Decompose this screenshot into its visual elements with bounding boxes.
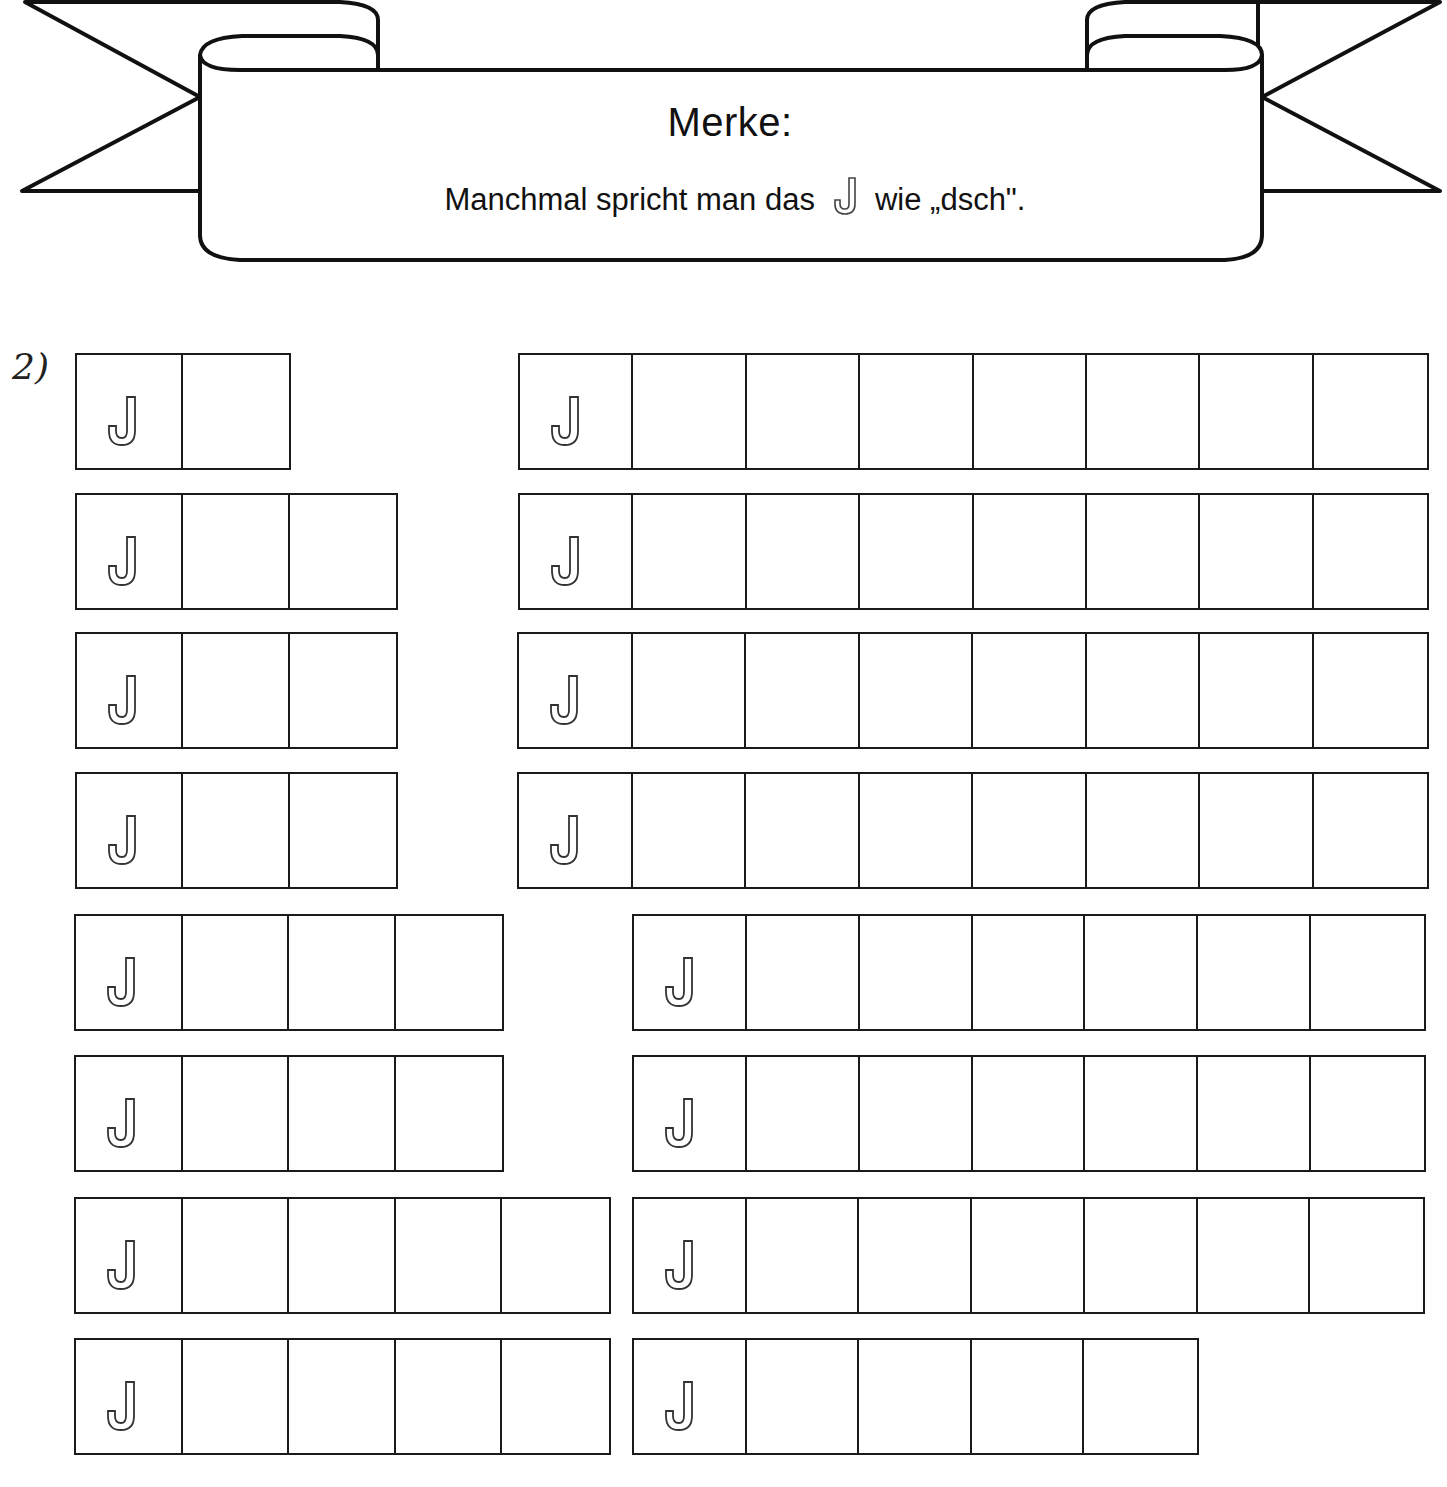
word-row	[632, 1338, 1199, 1455]
letter-write-cell[interactable]	[633, 774, 747, 887]
letter-write-cell[interactable]	[290, 634, 396, 747]
letter-write-cell[interactable]	[396, 1057, 503, 1170]
letter-write-cell[interactable]	[183, 1057, 290, 1170]
word-row	[75, 493, 398, 610]
letter-write-cell[interactable]	[1087, 495, 1200, 608]
letter-write-cell[interactable]	[502, 1340, 609, 1453]
letter-write-cell[interactable]	[860, 774, 974, 887]
letter-write-cell[interactable]	[974, 495, 1087, 608]
start-letter-cell	[77, 774, 183, 887]
start-letter-cell	[76, 1199, 183, 1312]
letter-write-cell[interactable]	[1314, 634, 1428, 747]
rule-text-after: wie „dsch".	[875, 182, 1026, 217]
letter-write-cell[interactable]	[746, 774, 860, 887]
letter-write-cell[interactable]	[1314, 495, 1427, 608]
letter-write-cell[interactable]	[1084, 1340, 1197, 1453]
letter-write-cell[interactable]	[973, 634, 1087, 747]
letter-write-cell[interactable]	[183, 916, 290, 1029]
word-row	[74, 1197, 611, 1314]
letter-write-cell[interactable]	[747, 916, 860, 1029]
letter-write-cell[interactable]	[972, 1340, 1085, 1453]
letter-write-cell[interactable]	[746, 634, 860, 747]
letter-write-cell[interactable]	[633, 495, 746, 608]
letter-write-cell[interactable]	[396, 1340, 503, 1453]
letter-write-cell[interactable]	[289, 1057, 396, 1170]
letter-write-cell[interactable]	[974, 355, 1087, 468]
start-letter-cell	[77, 355, 183, 468]
letter-write-cell[interactable]	[1200, 774, 1314, 887]
letter-write-cell[interactable]	[859, 1199, 972, 1312]
start-letter-cell	[634, 916, 747, 1029]
letter-write-cell[interactable]	[396, 916, 503, 1029]
letter-write-cell[interactable]	[973, 774, 1087, 887]
letter-write-cell[interactable]	[1085, 1057, 1198, 1170]
letter-write-cell[interactable]	[1085, 1199, 1198, 1312]
start-letter-cell	[519, 774, 633, 887]
letter-write-cell[interactable]	[633, 634, 747, 747]
letter-write-cell[interactable]	[1200, 634, 1314, 747]
letter-write-cell[interactable]	[183, 634, 289, 747]
letter-write-cell[interactable]	[860, 1057, 973, 1170]
letter-write-cell[interactable]	[633, 355, 746, 468]
word-row	[75, 632, 398, 749]
letter-write-cell[interactable]	[183, 1340, 290, 1453]
letter-write-cell[interactable]	[289, 916, 396, 1029]
letter-write-cell[interactable]	[1198, 1199, 1311, 1312]
word-row	[632, 1197, 1425, 1314]
letter-write-cell[interactable]	[1087, 774, 1201, 887]
letter-write-cell[interactable]	[183, 774, 289, 887]
word-row	[518, 353, 1429, 470]
task-number: 2)	[12, 346, 49, 387]
word-row	[517, 772, 1429, 889]
letter-write-cell[interactable]	[1200, 495, 1313, 608]
letter-write-cell[interactable]	[747, 1199, 860, 1312]
letter-write-cell[interactable]	[1087, 634, 1201, 747]
letter-write-cell[interactable]	[747, 1340, 860, 1453]
letter-write-cell[interactable]	[860, 355, 973, 468]
word-row	[632, 1055, 1426, 1172]
outlined-letter-j-icon	[829, 176, 861, 216]
letter-write-cell[interactable]	[1198, 1057, 1311, 1170]
letter-write-cell[interactable]	[289, 1199, 396, 1312]
letter-write-cell[interactable]	[1310, 1199, 1423, 1312]
letter-write-cell[interactable]	[396, 1199, 503, 1312]
letter-write-cell[interactable]	[1314, 355, 1427, 468]
start-letter-cell	[76, 1340, 183, 1453]
letter-write-cell[interactable]	[860, 916, 973, 1029]
letter-write-cell[interactable]	[747, 495, 860, 608]
letter-write-cell[interactable]	[860, 495, 973, 608]
start-letter-cell	[634, 1199, 747, 1312]
letter-write-cell[interactable]	[1200, 355, 1313, 468]
letter-write-cell[interactable]	[859, 1340, 972, 1453]
letter-write-cell[interactable]	[973, 1057, 1086, 1170]
start-letter-cell	[76, 1057, 183, 1170]
word-row	[518, 493, 1429, 610]
start-letter-cell	[76, 916, 183, 1029]
letter-write-cell[interactable]	[1314, 774, 1428, 887]
letter-write-cell[interactable]	[290, 495, 396, 608]
letter-write-cell[interactable]	[183, 495, 289, 608]
letter-write-cell[interactable]	[183, 355, 289, 468]
start-letter-cell	[520, 495, 633, 608]
letter-write-cell[interactable]	[1198, 916, 1311, 1029]
start-letter-cell	[77, 634, 183, 747]
letter-write-cell[interactable]	[747, 1057, 860, 1170]
letter-write-cell[interactable]	[860, 634, 974, 747]
letter-write-cell[interactable]	[183, 1199, 290, 1312]
word-row	[632, 914, 1426, 1031]
letter-write-cell[interactable]	[1311, 916, 1424, 1029]
word-row	[74, 1055, 504, 1172]
letter-write-cell[interactable]	[289, 1340, 396, 1453]
letter-write-cell[interactable]	[973, 916, 1086, 1029]
start-letter-cell	[520, 355, 633, 468]
letter-write-cell[interactable]	[1085, 916, 1198, 1029]
start-letter-cell	[77, 495, 183, 608]
letter-write-cell[interactable]	[290, 774, 396, 887]
letter-write-cell[interactable]	[1087, 355, 1200, 468]
letter-write-cell[interactable]	[972, 1199, 1085, 1312]
start-letter-cell	[634, 1057, 747, 1170]
letter-write-cell[interactable]	[502, 1199, 609, 1312]
letter-write-cell[interactable]	[1311, 1057, 1424, 1170]
word-row	[74, 914, 504, 1031]
letter-write-cell[interactable]	[747, 355, 860, 468]
